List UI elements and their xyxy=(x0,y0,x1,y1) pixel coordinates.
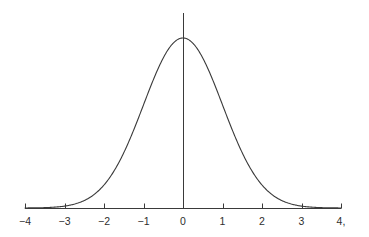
x-tick-label: 0 xyxy=(180,215,186,227)
x-tick-label: 2 xyxy=(259,215,265,227)
x-tick-label: −3 xyxy=(59,215,71,227)
normal-distribution-plot: −4−3−2−101234, xyxy=(0,0,369,237)
x-tick-label: −1 xyxy=(138,215,150,227)
plot-canvas xyxy=(0,0,369,237)
x-tick-label: −4 xyxy=(19,215,31,227)
x-tick-label: 1 xyxy=(220,215,226,227)
x-tick-label: −2 xyxy=(98,215,110,227)
x-tick-label: 3 xyxy=(299,215,305,227)
x-tick-label: 4, xyxy=(337,215,346,227)
